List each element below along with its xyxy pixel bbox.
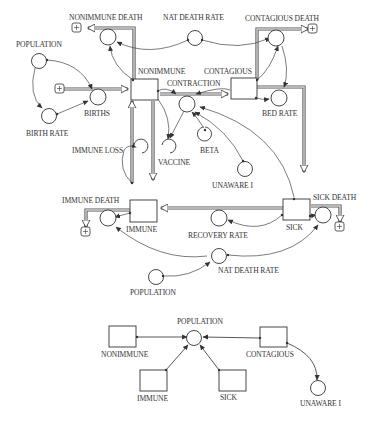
aux-nat-death-rate-top — [188, 31, 203, 46]
label-immune-loss: IMMUNE LOSS — [72, 146, 123, 155]
aux-population-top — [32, 54, 47, 69]
sub-label-nonimmune: NONIMMUNE — [101, 350, 149, 359]
valve-births — [90, 89, 106, 105]
label-population-bottom: POPULATION — [130, 288, 176, 297]
sub-stock-contagious — [260, 327, 287, 347]
aux-population-bottom — [149, 270, 164, 285]
label-contagious-stock: CONTAGIOUS — [204, 67, 252, 76]
valve-immune-loss — [134, 139, 148, 153]
label-birth-rate: BIRTH RATE — [26, 129, 69, 138]
label-sick-stock: SICK — [286, 223, 304, 232]
label-immune-stock: IMMUNE — [126, 225, 158, 234]
label-nat-death-rate-bottom: NAT DEATH RATE — [218, 266, 279, 275]
cloud-icon — [55, 84, 64, 93]
stock-contagious — [231, 78, 257, 99]
sub-aux-population — [187, 331, 202, 346]
label-births: BIRTHS — [84, 109, 110, 118]
label-contagious-death: CONTAGIOUS DEATH — [245, 14, 320, 23]
sub-label-unaware-i: UNAWARE I — [300, 399, 341, 408]
aux-nat-death-rate-bottom — [212, 249, 227, 264]
cloud-icon — [335, 222, 344, 231]
label-population-top: POPULATION — [16, 40, 62, 49]
sub-aux-unaware-i — [311, 381, 326, 396]
valve-contagious-death — [268, 30, 284, 46]
sub-stock-sick — [219, 370, 246, 391]
stock-nonimmune — [131, 79, 158, 100]
label-sick-death: SICK DEATH — [313, 193, 357, 202]
flow-valves — [90, 29, 331, 226]
cloud-icon — [308, 24, 317, 33]
sub-stock-nonimmune — [109, 326, 136, 347]
stock-sick — [283, 199, 310, 220]
sub-model: POPULATION NONIMMUNE CONTAGIOUS IMMUNE S… — [101, 317, 341, 408]
label-contraction: CONTRACTION — [167, 79, 221, 88]
cloud-icon — [72, 23, 81, 32]
cloud-icon — [81, 227, 90, 236]
label-beta: BETA — [200, 146, 219, 155]
sub-label-sick: SICK — [220, 393, 238, 402]
valve-nonimmune-death — [100, 29, 116, 45]
sub-label-population: POPULATION — [177, 317, 223, 326]
sub-label-contagious: CONTAGIOUS — [246, 350, 294, 359]
sub-label-immune: IMMUNE — [137, 394, 169, 403]
label-immune-death: IMMUNE DEATH — [62, 196, 120, 205]
valve-bed-rate — [271, 90, 287, 106]
valve-vaccine — [162, 139, 176, 153]
aux-unaware-i — [238, 162, 253, 177]
stock-flow-diagram: NONIMMUNE DEATH NAT DEATH RATE CONTAGIOU… — [0, 0, 374, 423]
valve-immune-death — [100, 210, 116, 226]
label-recovery-rate: RECOVERY RATE — [188, 231, 248, 240]
sub-stock-immune — [140, 370, 167, 391]
valve-recovery-rate — [211, 210, 227, 226]
label-nat-death-rate-top: NAT DEATH RATE — [163, 13, 224, 22]
aux-birth-rate — [42, 109, 57, 124]
valve-sick-death — [315, 207, 331, 223]
label-unaware-i: UNAWARE I — [212, 181, 253, 190]
stock-immune — [130, 200, 157, 222]
label-bed-rate: BED RATE — [262, 109, 298, 118]
valve-contraction — [179, 96, 195, 112]
label-vaccine: VACCINE — [158, 158, 191, 167]
label-nonimmune-stock: NONIMMUNE — [138, 67, 186, 76]
label-nonimmune-death: NONIMMUNE DEATH — [69, 13, 143, 22]
